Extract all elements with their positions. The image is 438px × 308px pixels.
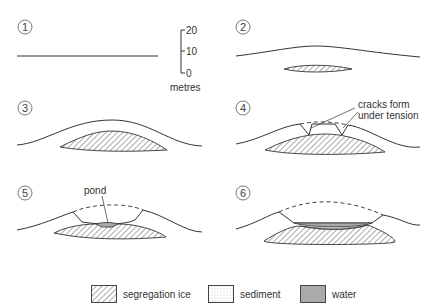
panel-1: 1 20 10 0 metres <box>17 20 201 93</box>
scale-unit: metres <box>170 82 201 93</box>
panel-2: 2 <box>236 20 420 72</box>
original-surface <box>73 205 143 212</box>
legend-label: segregation ice <box>123 289 191 300</box>
panel-3: 3 <box>17 101 202 151</box>
scale-tick-0: 0 <box>186 68 192 79</box>
panel-number: 1 <box>22 21 28 33</box>
legend-label: water <box>332 289 356 300</box>
segregation-ice-lens <box>284 65 352 72</box>
panel-5: 5 pond <box>17 185 202 239</box>
original-surface <box>279 202 383 215</box>
cracks-label-line2: under tension <box>358 110 419 121</box>
cracks-label-line1: cracks form <box>358 99 410 110</box>
pond-leader-line <box>102 196 108 223</box>
stipple-swatch-icon <box>208 285 234 303</box>
segregation-ice <box>265 134 385 154</box>
panel-number: 5 <box>22 187 28 199</box>
legend-item-water: water <box>300 285 356 303</box>
legend-item-segregation-ice: segregation ice <box>91 285 191 303</box>
legend-label: sediment <box>240 289 281 300</box>
panel-4: 4 cracks form under tension <box>236 99 420 154</box>
panel-number: 2 <box>240 21 246 33</box>
panel-number: 4 <box>240 102 246 114</box>
legend-item-sediment: sediment <box>208 285 281 303</box>
segregation-ice <box>60 131 167 151</box>
panel-number: 3 <box>22 102 28 114</box>
grey-swatch-icon <box>300 285 326 303</box>
pond-label: pond <box>84 185 106 196</box>
panel-number: 6 <box>240 187 246 199</box>
pingo-diagram: 1 20 10 0 metres 2 3 4 <box>0 0 438 308</box>
scale-tick-20: 20 <box>186 25 198 36</box>
hatch-swatch-icon <box>91 285 117 303</box>
scale-bar: 20 10 0 metres <box>170 25 201 93</box>
ground-surface <box>236 46 420 57</box>
scale-tick-10: 10 <box>186 46 198 57</box>
panel-6: 6 <box>236 186 420 245</box>
